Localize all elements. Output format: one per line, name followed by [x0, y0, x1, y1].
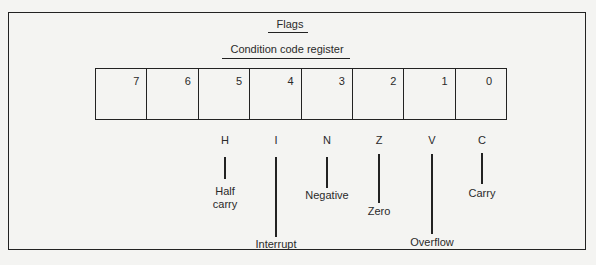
bit-number: 6: [185, 75, 191, 87]
bit-cell-0: 0: [456, 69, 506, 119]
bit-cell-5: 5: [199, 69, 250, 119]
flag-name: Overflow: [397, 236, 467, 249]
flag-letter: C: [447, 134, 517, 146]
bit-cell-4: 4: [250, 69, 301, 119]
register-subtitle-underline: [222, 58, 350, 59]
flag-name: Carry: [447, 187, 517, 200]
condition-code-register: 7 6 5 4 3 2 1 0: [95, 68, 507, 120]
bit-cell-7: 7: [96, 69, 147, 119]
bit-number: 3: [339, 75, 345, 87]
bit-number: 0: [486, 75, 492, 87]
flags-title: Flags: [270, 18, 310, 30]
flag-connector-line: [275, 157, 277, 237]
flag-connector-line: [431, 154, 433, 234]
flag-name: Zero: [344, 205, 414, 218]
flag-connector-line: [326, 157, 328, 188]
flag-connector-line: [224, 157, 226, 179]
bit-number: 7: [133, 75, 139, 87]
flag-name: Interrupt: [241, 238, 311, 251]
flag-connector-line: [481, 153, 483, 184]
flag-name: Negative: [292, 189, 362, 202]
bit-number: 5: [236, 75, 242, 87]
bit-number: 4: [287, 75, 293, 87]
bit-cell-2: 2: [353, 69, 404, 119]
bit-number: 1: [442, 75, 448, 87]
bit-number: 2: [390, 75, 396, 87]
flags-title-underline: [268, 32, 308, 33]
flag-connector-line: [378, 154, 380, 203]
bit-cell-1: 1: [404, 69, 455, 119]
flag-name: Half carry: [190, 185, 260, 211]
bit-cell-6: 6: [147, 69, 198, 119]
register-subtitle: Condition code register: [222, 43, 352, 55]
bit-cell-3: 3: [302, 69, 353, 119]
